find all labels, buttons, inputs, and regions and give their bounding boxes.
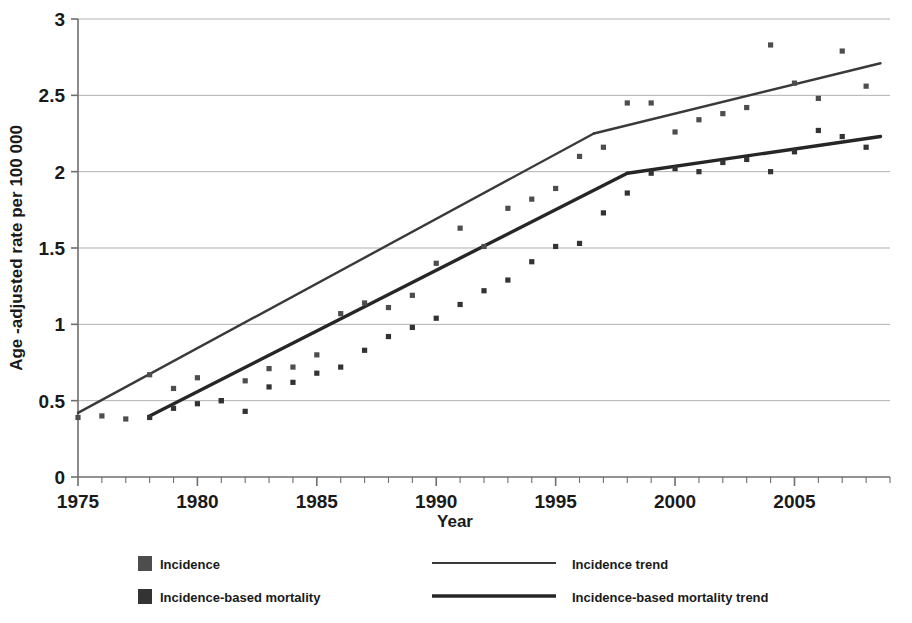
- data-point: [75, 415, 80, 420]
- legend-swatch-square: [138, 556, 152, 571]
- data-point: [864, 84, 869, 89]
- data-point: [625, 190, 630, 195]
- data-point: [649, 100, 654, 105]
- legend-label: Incidence-based mortality: [160, 590, 321, 605]
- data-point: [266, 366, 271, 371]
- x-axis-title: Year: [437, 512, 473, 531]
- y-tick-label: 1: [54, 314, 65, 335]
- legend-label: Incidence: [160, 557, 220, 572]
- data-point: [792, 149, 797, 154]
- data-point: [601, 145, 606, 150]
- data-point: [625, 100, 630, 105]
- y-tick-label: 1.5: [39, 238, 66, 259]
- data-point: [768, 169, 773, 174]
- incidence-mortality-trend-chart: 00.511.522.53 19751980198519901995200020…: [0, 0, 912, 623]
- data-point: [219, 398, 224, 403]
- data-point: [696, 169, 701, 174]
- data-point: [243, 378, 248, 383]
- data-point: [553, 244, 558, 249]
- legend-label: Incidence-based mortality trend: [572, 590, 769, 605]
- x-tick-label: 1980: [176, 491, 218, 512]
- data-point: [768, 42, 773, 47]
- data-point: [314, 371, 319, 376]
- data-point: [840, 48, 845, 53]
- data-point: [386, 305, 391, 310]
- data-point: [816, 96, 821, 101]
- y-tick-label: 2.5: [39, 85, 66, 106]
- y-tick-label: 3: [54, 9, 65, 30]
- data-point: [99, 413, 104, 418]
- legend-label: Incidence trend: [572, 557, 668, 572]
- data-point: [458, 226, 463, 231]
- x-tick-label: 1985: [296, 491, 339, 512]
- data-point: [147, 415, 152, 420]
- y-tick-label: 2: [54, 162, 65, 183]
- data-point: [505, 277, 510, 282]
- data-point: [362, 348, 367, 353]
- x-tick-label: 2000: [654, 491, 696, 512]
- data-point: [171, 406, 176, 411]
- data-point: [481, 244, 486, 249]
- data-point: [577, 154, 582, 159]
- chart-figure: 00.511.522.53 19751980198519901995200020…: [0, 0, 912, 623]
- data-point: [171, 386, 176, 391]
- data-point: [290, 364, 295, 369]
- data-point: [720, 111, 725, 116]
- data-point: [529, 259, 534, 264]
- data-point: [410, 293, 415, 298]
- data-point: [195, 401, 200, 406]
- data-point: [601, 210, 606, 215]
- data-point: [649, 171, 654, 176]
- y-tick-label: 0.5: [39, 391, 66, 412]
- legend-item: Incidence-based mortality: [138, 589, 321, 605]
- legend-item: Incidence: [138, 556, 220, 572]
- data-point: [123, 416, 128, 421]
- data-point: [290, 380, 295, 385]
- y-tick-label: 0: [54, 467, 65, 488]
- data-point: [458, 302, 463, 307]
- data-point: [314, 352, 319, 357]
- data-point: [744, 157, 749, 162]
- data-point: [672, 166, 677, 171]
- data-point: [864, 145, 869, 150]
- legend-swatch-square: [138, 589, 152, 604]
- y-axis-title: Age -adjusted rate per 100 000: [7, 125, 26, 371]
- data-point: [386, 334, 391, 339]
- data-point: [840, 134, 845, 139]
- data-point: [696, 117, 701, 122]
- data-point: [816, 128, 821, 133]
- data-point: [434, 261, 439, 266]
- data-point: [553, 186, 558, 191]
- data-point: [672, 129, 677, 134]
- data-point: [338, 311, 343, 316]
- data-point: [505, 206, 510, 211]
- data-point: [362, 300, 367, 305]
- data-point: [744, 105, 749, 110]
- data-point: [434, 316, 439, 321]
- data-point: [147, 372, 152, 377]
- data-point: [577, 241, 582, 246]
- data-point: [338, 364, 343, 369]
- x-tick-label: 1975: [57, 491, 100, 512]
- data-point: [410, 325, 415, 330]
- x-tick-label: 1995: [535, 491, 578, 512]
- data-point: [195, 375, 200, 380]
- data-point: [266, 384, 271, 389]
- data-point: [720, 160, 725, 165]
- data-point: [243, 409, 248, 414]
- data-point: [792, 81, 797, 86]
- x-tick-label: 1990: [415, 491, 457, 512]
- data-point: [481, 288, 486, 293]
- data-point: [529, 197, 534, 202]
- x-tick-label: 2005: [773, 491, 816, 512]
